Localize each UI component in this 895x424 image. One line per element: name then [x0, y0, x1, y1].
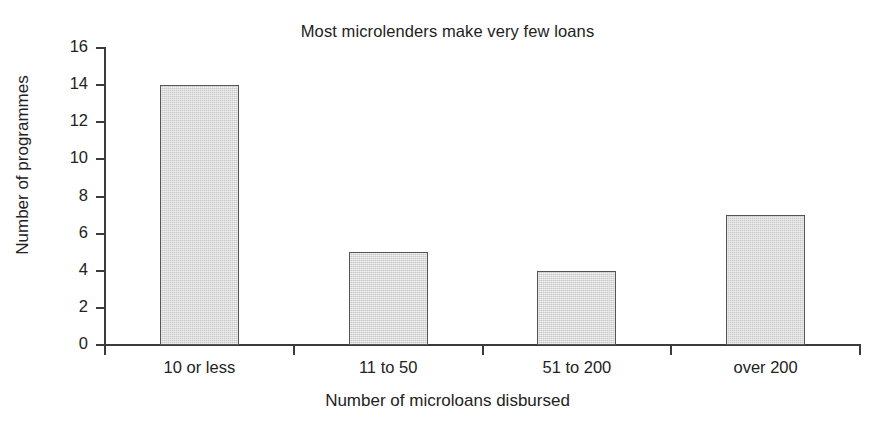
y-axis-tick — [96, 121, 105, 123]
y-axis-tick — [96, 84, 105, 86]
bar-chart: Most microlenders make very few loans 02… — [0, 0, 895, 424]
y-axis-tick — [96, 233, 105, 235]
x-axis-category-label: 10 or less — [164, 358, 236, 377]
x-axis-tick — [670, 345, 672, 355]
x-axis-category-label: 51 to 200 — [542, 358, 611, 377]
y-axis-tick-label: 4 — [48, 260, 88, 279]
y-axis-tick — [96, 307, 105, 309]
bar — [726, 215, 805, 345]
bar — [349, 252, 428, 345]
y-axis-tick — [96, 47, 105, 49]
x-axis-tick — [859, 345, 861, 355]
y-axis-tick — [96, 158, 105, 160]
y-axis-tick-label: 10 — [48, 148, 88, 167]
bar — [160, 85, 239, 345]
y-axis-tick-label: 2 — [48, 297, 88, 316]
x-axis-tick — [104, 345, 106, 355]
y-axis-tick-label: 6 — [48, 223, 88, 242]
y-axis-tick-label: 8 — [48, 186, 88, 205]
y-axis-tick-label: 14 — [48, 74, 88, 93]
y-axis-tick-label: 16 — [48, 37, 88, 56]
x-axis-category-label: over 200 — [734, 358, 798, 377]
y-axis-tick — [96, 270, 105, 272]
y-axis-tick-label: 0 — [48, 334, 88, 353]
chart-title: Most microlenders make very few loans — [0, 22, 895, 41]
y-axis-tick — [96, 196, 105, 198]
x-axis-tick — [482, 345, 484, 355]
x-axis-category-label: 11 to 50 — [359, 358, 417, 377]
y-axis-title: Number of programmes — [13, 35, 33, 295]
x-axis-tick — [293, 345, 295, 355]
x-axis-title: Number of microloans disbursed — [0, 391, 895, 411]
y-axis-tick-label: 12 — [48, 111, 88, 130]
bar — [537, 271, 616, 345]
